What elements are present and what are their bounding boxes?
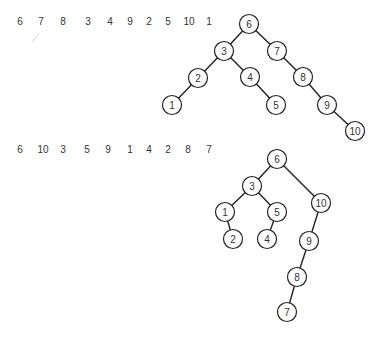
tree-node: 9 xyxy=(300,232,319,251)
tree-node: 3 xyxy=(243,177,262,196)
node-label: 7 xyxy=(284,307,290,318)
tree-node: 6 xyxy=(240,15,259,34)
node-label: 10 xyxy=(315,198,327,209)
node-label: 7 xyxy=(274,46,280,57)
tree-nodes: 6372481591063101524987 xyxy=(163,15,365,322)
node-label: 2 xyxy=(195,73,201,84)
tree-node: 8 xyxy=(294,68,313,87)
node-label: 5 xyxy=(273,100,279,111)
node-label: 9 xyxy=(324,100,330,111)
tree-node: 2 xyxy=(189,69,208,88)
node-label: 6 xyxy=(274,154,280,165)
tree-node: 7 xyxy=(278,303,297,322)
node-label: 10 xyxy=(349,126,361,137)
tree-node: 2 xyxy=(224,230,243,249)
tree-node: 5 xyxy=(267,96,286,115)
stray-mark xyxy=(32,33,39,42)
tree-node: 8 xyxy=(288,268,307,287)
node-label: 1 xyxy=(169,100,175,111)
tree-edges xyxy=(172,24,355,312)
tree-node: 4 xyxy=(258,230,277,249)
node-label: 8 xyxy=(300,72,306,83)
node-label: 4 xyxy=(264,234,270,245)
node-label: 2 xyxy=(230,234,236,245)
tree-node: 1 xyxy=(163,96,182,115)
node-label: 5 xyxy=(274,207,280,218)
tree-node: 7 xyxy=(268,42,287,61)
tree-node: 5 xyxy=(268,203,287,222)
node-label: 3 xyxy=(249,181,255,192)
node-label: 6 xyxy=(246,19,252,30)
node-label: 1 xyxy=(222,207,228,218)
node-label: 4 xyxy=(247,72,253,83)
tree-node: 6 xyxy=(268,150,287,169)
node-label: 3 xyxy=(221,46,227,57)
node-label: 8 xyxy=(294,272,300,283)
binary-search-trees: 6372481591063101524987 xyxy=(0,0,376,337)
tree-node: 10 xyxy=(346,122,365,141)
tree-node: 1 xyxy=(216,203,235,222)
tree-node: 10 xyxy=(312,194,331,213)
tree-node: 4 xyxy=(241,68,260,87)
node-label: 9 xyxy=(306,236,312,247)
tree-node: 3 xyxy=(215,42,234,61)
tree-node: 9 xyxy=(318,96,337,115)
